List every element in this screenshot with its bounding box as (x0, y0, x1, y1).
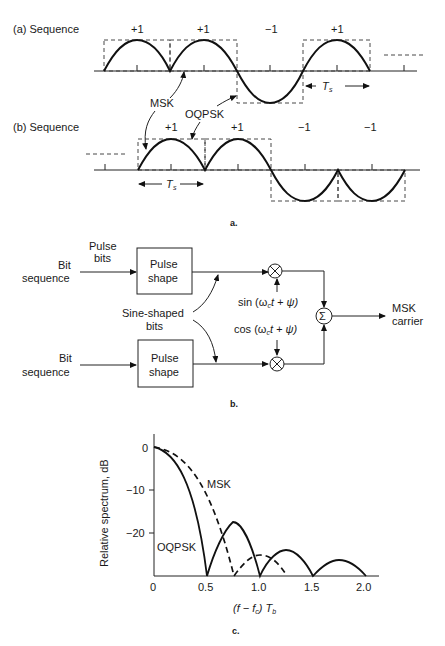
svg-text:sequence: sequence (22, 366, 70, 378)
svg-text:s: s (173, 184, 177, 191)
cos-carrier-label: cos (ωct + ψ) (234, 323, 298, 336)
ts-dimension-b: T s (139, 178, 203, 191)
sequence-a-label: (a) Sequence (13, 23, 79, 35)
seq-b-bit-1: +1 (165, 121, 178, 133)
seq-b-bit-2: +1 (231, 121, 244, 133)
seq-a-bit-1: +1 (131, 23, 144, 35)
caption-c: c. (232, 626, 240, 636)
bit-sequence-bottom-label: Bit (59, 352, 72, 364)
svg-text:bits: bits (94, 252, 112, 264)
svg-text:bits: bits (146, 320, 164, 332)
svg-text:carrier: carrier (392, 315, 424, 327)
oqpsk-arrow-to-a (217, 96, 236, 106)
multiplier-top (268, 264, 282, 278)
multiplier-bottom (270, 357, 284, 371)
seq-a-bit-3: −1 (265, 23, 278, 35)
msk-callout-label: MSK (150, 97, 175, 109)
panel-b-block-diagram: Pulse bits Bit sequence Pulse shape sin … (22, 240, 424, 409)
x-axis-label: (f − fc) Tb (233, 602, 276, 615)
sin-carrier-label: sin (ωct + ψ) (238, 296, 298, 309)
sine-shaped-arrow-top (193, 275, 218, 312)
seq-a-bit-2: +1 (197, 23, 210, 35)
oqpsk-arrow-to-b (192, 122, 200, 139)
svg-text:0.5: 0.5 (198, 581, 213, 593)
svg-text:0: 0 (142, 442, 148, 454)
svg-text:2.0: 2.0 (356, 581, 371, 593)
caption-a: a. (230, 218, 238, 228)
bit-sequence-top-label: Bit (58, 259, 71, 271)
pulse-bits-label: Pulse (89, 240, 117, 252)
pulse-shape-box-top (137, 248, 192, 294)
svg-text:1.0: 1.0 (251, 581, 266, 593)
svg-text:−20: −20 (126, 527, 145, 539)
msk-arrow-to-a (170, 72, 184, 98)
svg-text:1.5: 1.5 (304, 581, 319, 593)
svg-text:shape: shape (149, 366, 179, 378)
oqpsk-callout-label: OQPSK (185, 108, 225, 120)
seq-b-bit-3: −1 (298, 121, 311, 133)
svg-text:Pulse: Pulse (151, 352, 179, 364)
summer-node: Σ (316, 308, 332, 324)
oqpsk-curve (154, 447, 366, 576)
msk-curve-label: MSK (207, 478, 232, 490)
msk-arrow-to-b (145, 111, 155, 149)
ts-dimension-a: T s (306, 80, 369, 93)
figure-canvas: (a) Sequence +1 +1 −1 +1 T s (0, 0, 445, 646)
svg-text:−10: −10 (126, 484, 145, 496)
sequence-b-label: (b) Sequence (13, 121, 79, 133)
svg-text:Pulse: Pulse (150, 258, 178, 270)
msk-carrier-label: MSK (392, 302, 417, 314)
svg-text:Σ: Σ (319, 310, 326, 322)
sine-shaped-arrow-bottom (193, 320, 216, 362)
panel-a-waveforms: (a) Sequence +1 +1 −1 +1 T s (13, 23, 425, 228)
y-axis-label: Relative spectrum, dB (98, 459, 110, 567)
sine-shaped-bits-label: Sine-shaped (122, 307, 184, 319)
svg-text:s: s (329, 86, 333, 93)
svg-text:0: 0 (150, 581, 156, 593)
sequence-b-ticks (105, 164, 372, 170)
caption-b: b. (230, 399, 238, 409)
svg-text:shape: shape (148, 272, 178, 284)
msk-curve (154, 447, 287, 576)
seq-a-bit-4: +1 (331, 23, 344, 35)
seq-b-bit-4: −1 (364, 121, 377, 133)
oqpsk-curve-label: OQPSK (157, 541, 197, 553)
x-ticks: 0 0.5 1.0 1.5 2.0 (150, 581, 371, 593)
y-ticks: 0 −10 −20 (126, 442, 154, 539)
sequence-a-ticks (137, 65, 404, 71)
svg-text:sequence: sequence (22, 272, 70, 284)
panel-c-spectrum-chart: Relative spectrum, dB 0 −10 −20 0 0.5 1.… (98, 434, 379, 636)
